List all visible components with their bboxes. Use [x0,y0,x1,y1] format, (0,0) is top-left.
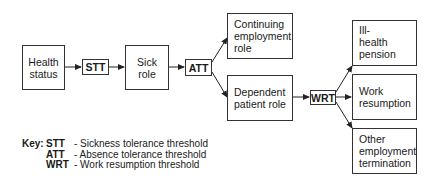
node-label: Continuing employment role [234,18,286,54]
node-label: Other employment termination [359,133,410,169]
node-work-resumption: Work resumption [352,74,417,120]
threshold-label: ATT [189,62,209,74]
threshold-stt: STT [82,59,109,75]
node-health-status: Health status [22,45,65,90]
threshold-label: STT [86,61,106,73]
node-ill-health-pension: Ill- health pension [352,20,417,66]
legend-desc: - Sickness tolerance threshold [74,138,208,149]
legend-row: WRT- Work resumption threshold [22,160,208,171]
threshold-label: WRT [311,92,335,104]
legend-desc: - Absence tolerance threshold [74,149,206,160]
threshold-wrt: WRT [310,90,336,105]
node-label: Ill- health pension [359,24,399,60]
legend-key: Key:STT- Sickness tolerance threshold AT… [22,139,208,171]
node-label: Sick role [134,56,160,80]
node-label: Health status [28,56,58,80]
node-continuing-employment-role: Continuing employment role [227,13,293,59]
legend-abbr: STT [46,139,74,150]
node-label: Dependent patient role [234,86,286,110]
node-other-employment-termination: Other employment termination [352,128,417,174]
node-sick-role: Sick role [125,45,169,90]
node-label: Work resumption [359,85,410,109]
node-dependent-patient-role: Dependent patient role [227,75,293,121]
legend-desc: - Work resumption threshold [74,159,199,170]
threshold-att: ATT [185,59,212,76]
legend-abbr: WRT [46,160,74,171]
legend-title: Key: [22,139,46,150]
